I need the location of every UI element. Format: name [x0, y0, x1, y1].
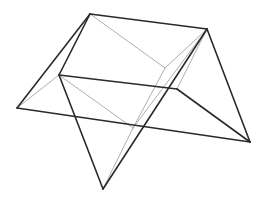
edge-C-D	[59, 75, 177, 89]
polyhedron-diagram	[0, 0, 265, 202]
light-edges-group	[17, 14, 207, 189]
dark-edges-group	[17, 14, 250, 189]
edge-B-D	[177, 29, 207, 89]
edge-A-C	[59, 14, 90, 75]
edge-A-E	[17, 14, 90, 108]
edge-B-G	[103, 29, 207, 189]
edge-B-F	[207, 29, 250, 142]
edge-D-F	[177, 89, 250, 142]
edge-B-H	[133, 29, 207, 128]
edge-E-F	[17, 108, 250, 142]
edge-H-G	[103, 128, 133, 189]
edge-C-G	[59, 75, 103, 189]
